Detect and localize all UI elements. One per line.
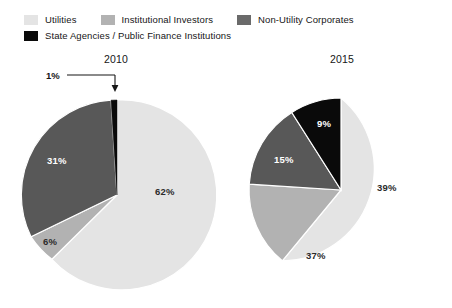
callout-2010-state-agencies: 1% [46,70,130,96]
legend-label-non-utility-corporates: Non-Utility Corporates [258,15,354,25]
legend-item-state-agencies[interactable]: State Agencies / Public Finance Institut… [24,31,231,41]
legend-item-non-utility-corporates[interactable]: Non-Utility Corporates [237,15,354,25]
pie-chart-2015: 39% 37% 15% 9% [247,96,435,284]
legend-swatch-institutional-investors [101,15,115,25]
chart-title-2010: 2010 [70,53,162,65]
callout-leader-line-icon [46,70,130,96]
legend-label-utilities: Utilities [45,15,77,25]
pie-2015-svg [247,96,435,284]
legend-swatch-utilities [24,15,38,25]
legend-row-1: Utilities Institutional Investors Non-Ut… [0,12,452,28]
legend-label-state-agencies: State Agencies / Public Finance Institut… [45,31,231,41]
legend-row-2: State Agencies / Public Finance Institut… [0,28,452,44]
pie-chart-2010: 62% 6% 31% [18,96,216,294]
pie-2010-svg [18,96,216,294]
legend-item-institutional-investors[interactable]: Institutional Investors [101,15,214,25]
legend-item-utilities[interactable]: Utilities [24,15,77,25]
pie-chart-figure: Utilities Institutional Investors Non-Ut… [0,0,452,308]
legend-swatch-state-agencies [24,31,38,41]
chart-title-2015: 2015 [296,53,388,65]
legend-label-institutional-investors: Institutional Investors [122,15,214,25]
legend-swatch-non-utility-corporates [237,15,251,25]
chart-legend: Utilities Institutional Investors Non-Ut… [0,12,452,44]
